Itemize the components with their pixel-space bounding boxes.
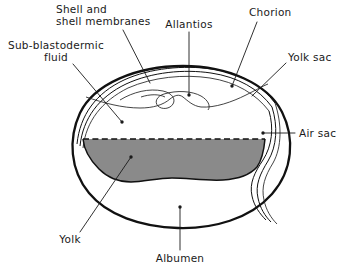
label-chorion: Chorion	[249, 6, 291, 18]
label-shell-and-membranes-line1: Shell and	[56, 3, 107, 15]
yolk-group	[83, 139, 265, 182]
egg-anatomy-figure: Shell and shell membranes Allantios Chor…	[0, 0, 349, 271]
label-allantois: Allantios	[165, 18, 212, 30]
label-shell-and-membranes-line2: shell membranes	[56, 15, 150, 27]
yolk-mass	[83, 139, 265, 182]
leader-dot-air-sac	[261, 131, 264, 134]
leader-dot-albumen	[178, 205, 181, 208]
label-sub-blastodermic-fluid-line2: fluid	[44, 51, 68, 63]
label-air-sac: Air sac	[299, 127, 336, 139]
egg-diagram-canvas: Shell and shell membranes Allantios Chor…	[0, 0, 349, 271]
label-yolk-sac: Yolk sac	[287, 51, 331, 63]
leader-chorion	[232, 22, 257, 86]
leader-dot-allantois	[187, 93, 190, 96]
label-yolk: Yolk	[58, 233, 81, 245]
leader-dot-sub-blastodermic-fluid	[120, 120, 123, 123]
label-albumen: Albumen	[156, 252, 205, 264]
leader-yolk-sac	[252, 63, 286, 96]
label-sub-blastodermic-fluid-line1: Sub-blastodermic	[8, 39, 104, 51]
leader-dot-chorion	[230, 84, 233, 87]
leader-dot-yolk	[129, 155, 132, 158]
